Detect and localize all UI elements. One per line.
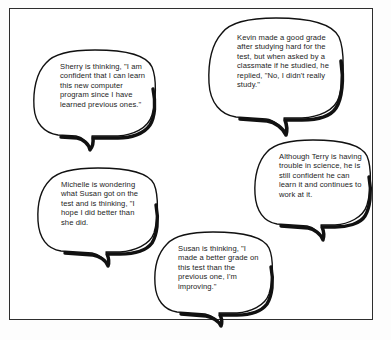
speech-bubble-sherry-text: Sherry is thinking, "I am confident that… <box>60 62 148 109</box>
speech-bubble-sherry: Sherry is thinking, "I am confident that… <box>32 49 158 149</box>
figure-frame: Sherry is thinking, "I am confident that… <box>9 8 373 320</box>
speech-bubble-susan: Susan is thinking, "I made a better grad… <box>153 231 275 325</box>
speech-bubble-susan-text: Susan is thinking, "I made a better grad… <box>178 244 260 291</box>
speech-bubble-michelle: Michelle is wondering what Susan got on … <box>36 167 160 265</box>
speech-bubble-kevin: Kevin made a good grade after studying h… <box>206 17 346 135</box>
speech-bubble-kevin-text: Kevin made a good grade after studying h… <box>237 33 332 89</box>
speech-bubble-michelle-text: Michelle is wondering what Susan got on … <box>61 180 147 227</box>
speech-bubble-terry-text: Although Terry is having trouble in scie… <box>279 152 363 199</box>
figure-canvas: Sherry is thinking, "I am confident that… <box>0 0 391 340</box>
speech-bubble-terry: Although Terry is having trouble in scie… <box>253 139 373 239</box>
